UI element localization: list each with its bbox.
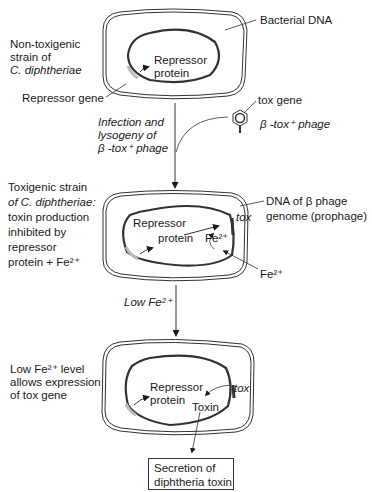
desc-line: of tox gene: [10, 389, 101, 402]
label-fe-outer: Fe²⁺: [260, 268, 283, 281]
desc-line: strain of: [10, 51, 82, 64]
desc-line: Non-toxigenic: [10, 38, 82, 51]
desc-line: repressor: [8, 240, 96, 255]
label-toxin: Toxin: [192, 401, 219, 414]
label-line: Repressor: [150, 381, 203, 394]
stage1-description: Non-toxigenic strain of C. diphtheriae: [10, 38, 82, 77]
label-phage-dna: DNA of β phage genome (prophage): [266, 194, 367, 224]
desc-line: lysogeny of: [98, 129, 168, 142]
label-repressor-protein-2: Repressor protein: [133, 216, 193, 246]
transition-infection: [175, 101, 256, 187]
desc-line: β -tox⁺ phage: [98, 142, 168, 155]
label-line: protein: [133, 231, 193, 246]
label-repressor-gene: Repressor gene: [22, 92, 104, 105]
desc-line: of C. diphtheriae:: [8, 195, 96, 210]
label-line: Repressor: [133, 216, 193, 231]
stage3-description: Low Fe²⁺ level allows expression of tox …: [10, 363, 101, 402]
label-tox-gene: tox gene: [258, 94, 302, 107]
label-line: genome (prophage): [266, 209, 367, 224]
label-tox-3: tox: [234, 382, 249, 395]
transition1-description: Infection and lysogeny of β -tox⁺ phage: [98, 116, 168, 155]
stage2-description: Toxigenic strain of C. diphtheriae: toxi…: [8, 180, 96, 270]
desc-line: inhibited by: [8, 225, 96, 240]
label-line: protein: [154, 67, 207, 80]
label-phage: β -tox⁺ phage: [260, 118, 330, 131]
label-repressor-protein-1: Repressor protein: [154, 54, 207, 80]
label-tox-2: tox: [236, 211, 251, 224]
label-line: Repressor: [154, 54, 207, 67]
desc-line: Toxigenic strain: [8, 180, 96, 195]
desc-line: C. diphtheriae: [10, 64, 82, 77]
tox-gene-text: tox gene: [258, 94, 302, 106]
box-line: diphtheria toxin: [154, 475, 233, 489]
desc-line: Low Fe²⁺ level: [10, 363, 101, 376]
desc-line: Infection and: [98, 116, 168, 129]
label-bacterial-dna: Bacterial DNA: [260, 14, 332, 27]
label-fe-inner: Fe²⁺: [205, 232, 228, 245]
output-box-secretion: Secretion of diphtheria toxin: [148, 458, 234, 490]
label-line: DNA of β phage: [266, 194, 367, 209]
desc-line: toxin production: [8, 210, 96, 225]
desc-line: protein + Fe²⁺: [8, 255, 96, 270]
desc-line: allows expression: [10, 376, 101, 389]
box-line: Secretion of: [154, 461, 233, 475]
transition2-description: Low Fe²⁺: [124, 296, 172, 309]
